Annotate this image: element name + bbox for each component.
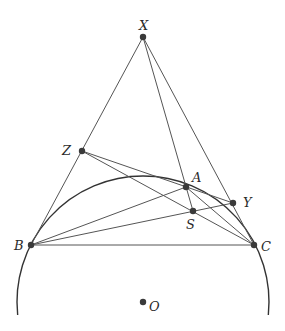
points — [28, 34, 257, 305]
segment-zy — [82, 151, 233, 203]
segment-xb — [31, 37, 143, 245]
line-segments — [31, 37, 254, 245]
label-b: B — [13, 238, 24, 253]
point-x — [140, 34, 146, 40]
point-s — [190, 208, 196, 214]
point-c — [251, 242, 257, 248]
point-y — [230, 200, 236, 206]
label-z: Z — [61, 143, 72, 158]
point-o — [140, 299, 146, 305]
geometry-figure: XZAYSBCO — [0, 0, 285, 331]
segment-by — [31, 203, 233, 245]
label-x: X — [138, 18, 149, 33]
label-y: Y — [243, 195, 253, 210]
label-c: C — [261, 239, 271, 254]
segment-zc — [82, 151, 254, 245]
segment-xc — [143, 37, 254, 245]
circle-o-arc — [17, 176, 269, 315]
point-b — [28, 242, 34, 248]
label-a: A — [191, 170, 201, 185]
point-z — [79, 148, 85, 154]
circle-arc — [17, 176, 269, 315]
label-o: O — [149, 299, 160, 314]
label-s: S — [186, 217, 195, 232]
point-labels: XZAYSBCO — [13, 18, 271, 314]
point-a — [183, 184, 189, 190]
segment-ba — [31, 187, 186, 245]
